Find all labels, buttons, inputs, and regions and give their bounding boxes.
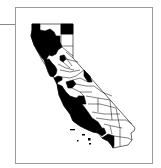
island (77, 140, 79, 142)
island (70, 129, 75, 130)
island (88, 138, 91, 141)
county-modoc (61, 24, 73, 34)
island (89, 143, 91, 145)
island (82, 134, 85, 136)
california-county-map (0, 0, 161, 168)
